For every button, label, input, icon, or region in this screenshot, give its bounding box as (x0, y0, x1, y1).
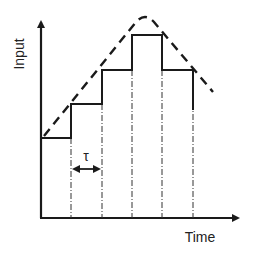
interval-label: τ (83, 148, 89, 164)
x-axis-label: Time (185, 229, 216, 245)
step-input-diagram: τ Input Time (0, 0, 253, 256)
y-axis-label: Input (11, 38, 27, 69)
interval-guides (71, 70, 193, 218)
continuous-input-curve (44, 17, 213, 136)
step-function (41, 35, 193, 138)
